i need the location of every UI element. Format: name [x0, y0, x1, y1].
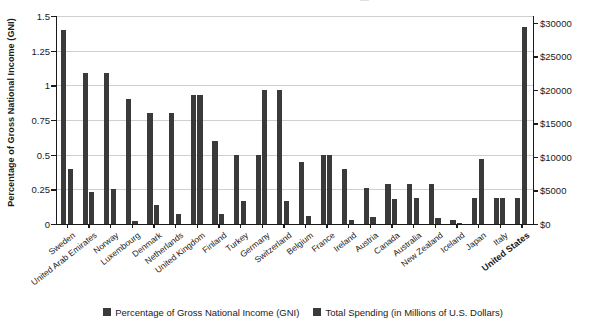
bar-total-spending: [219, 214, 224, 224]
y-axis-left-tick-label: 0.25: [10, 184, 50, 195]
y-axis-right-tick-label: $5000: [540, 185, 600, 196]
bar-total-spending: [370, 217, 375, 224]
bar-group: [234, 16, 246, 224]
legend-label: Total Spending (in Millions of U.S. Doll…: [325, 307, 502, 318]
bar-total-spending: [306, 216, 311, 224]
bar-total-spending: [89, 192, 94, 224]
x-axis-tick-mark: [262, 224, 263, 228]
x-axis-tick-label: Finland: [200, 230, 228, 255]
y-axis-right-tick-mark: [533, 224, 538, 225]
bar-group: [385, 16, 397, 224]
bar-gni-percentage: [234, 155, 239, 224]
x-axis-tick-mark: [500, 224, 501, 228]
bar-gni-percentage: [104, 73, 109, 224]
bar-group: [212, 16, 224, 224]
bar-group: [407, 16, 419, 224]
bar-group: [169, 16, 181, 224]
y-axis-right-tick-label: $15000: [540, 118, 600, 129]
y-axis-right-tick-label: $25000: [540, 51, 600, 62]
bar-group: [472, 16, 484, 224]
y-axis-left-tick-label: 1.5: [10, 11, 50, 22]
x-axis-tick-mark: [132, 224, 133, 228]
x-axis-tick-mark: [326, 224, 327, 228]
bar-total-spending: [176, 214, 181, 224]
bar-group: [277, 16, 289, 224]
bar-gni-percentage: [191, 95, 196, 224]
bar-gni-percentage: [342, 169, 347, 224]
x-axis-tick-mark: [110, 224, 111, 228]
bar-gni-percentage: [147, 113, 152, 224]
x-axis-tick-mark: [348, 224, 349, 228]
x-axis-tick-mark: [240, 224, 241, 228]
x-axis-tick-mark: [391, 224, 392, 228]
y-axis-right-tick-label: $0: [540, 219, 600, 230]
x-axis-tick-mark: [521, 224, 522, 228]
bar-total-spending: [349, 220, 354, 224]
cropped-title-remnant: —: [0, 0, 606, 8]
y-axis-left-tick-mark: [51, 51, 56, 52]
bar-gni-percentage: [472, 198, 477, 224]
bar-gni-percentage: [299, 162, 304, 224]
bar-group: [104, 16, 116, 224]
x-axis-tick-label: Japan: [464, 230, 488, 252]
legend-item[interactable]: Percentage of Gross National Income (GNI…: [103, 306, 299, 318]
bar-total-spending: [500, 198, 505, 224]
bar-group: [299, 16, 311, 224]
bar-gni-percentage: [385, 184, 390, 224]
bar-total-spending: [197, 95, 202, 224]
y-axis-left-tick-label: 1: [10, 80, 50, 91]
bar-total-spending: [457, 223, 462, 224]
x-axis-tick-mark: [175, 224, 176, 228]
bar-group: [494, 16, 506, 224]
y-axis-left-tick-mark: [51, 155, 56, 156]
bar-group: [147, 16, 159, 224]
bar-gni-percentage: [126, 99, 131, 224]
x-axis-tick-label: Iceland: [439, 230, 467, 255]
y-axis-right-tick-mark: [533, 23, 538, 24]
bar-total-spending: [522, 27, 527, 224]
legend-label: Percentage of Gross National Income (GNI…: [115, 307, 299, 318]
x-axis-tick-mark: [370, 224, 371, 228]
y-axis-right-tick-label: $30000: [540, 17, 600, 28]
y-axis-left-tick-mark: [51, 120, 56, 121]
bar-gni-percentage: [169, 113, 174, 224]
bar-total-spending: [68, 169, 73, 224]
chart-container: — Percentage of Gross National Income (G…: [0, 0, 606, 330]
bar-total-spending: [241, 201, 246, 224]
y-axis-left-tick-mark: [51, 85, 56, 86]
x-axis-tick-mark: [88, 224, 89, 228]
y-axis-left-tick-label: 0: [10, 219, 50, 230]
bar-group: [256, 16, 268, 224]
x-axis-tick-mark: [435, 224, 436, 228]
bar-total-spending: [262, 90, 267, 225]
bar-total-spending: [327, 155, 332, 224]
bar-gni-percentage: [407, 184, 412, 224]
bar-gni-percentage: [61, 30, 66, 224]
bar-gni-percentage: [364, 188, 369, 224]
bar-gni-percentage: [256, 155, 261, 224]
y-axis-right-tick-mark: [533, 123, 538, 124]
x-axis-tick-mark: [456, 224, 457, 228]
x-axis-tick-mark: [153, 224, 154, 228]
bar-gni-percentage: [450, 220, 455, 224]
y-axis-left-tick-label: 0.75: [10, 115, 50, 126]
legend-swatch: [313, 308, 321, 316]
bar-total-spending: [154, 205, 159, 224]
bar-gni-percentage: [515, 198, 520, 224]
bar-gni-percentage: [277, 90, 282, 225]
legend-swatch: [103, 308, 111, 316]
bar-group: [515, 16, 527, 224]
y-axis-right-tick-label: $20000: [540, 84, 600, 95]
y-axis-right-tick-mark: [533, 90, 538, 91]
legend-item[interactable]: Total Spending (in Millions of U.S. Doll…: [313, 306, 502, 318]
x-axis-tick-mark: [305, 224, 306, 228]
bar-group: [61, 16, 73, 224]
x-axis-tick-label: France: [310, 230, 337, 254]
bar-group: [191, 16, 203, 224]
bar-total-spending: [435, 218, 440, 224]
x-axis-tick-mark: [67, 224, 68, 228]
y-axis-left-tick-label: 0.5: [10, 149, 50, 160]
x-axis-tick-mark: [218, 224, 219, 228]
bar-gni-percentage: [212, 141, 217, 224]
bar-total-spending: [479, 159, 484, 224]
